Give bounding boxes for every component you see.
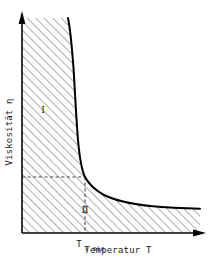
x-tick-label-tvmin-main: T	[76, 239, 82, 249]
hatched-area-under-curve	[22, 17, 201, 234]
viscosity-temperature-diagram: Viskosität η Temperatur T T v min I II	[0, 0, 212, 264]
region-label-one: I	[41, 105, 45, 115]
y-axis-label: Viskosität η	[4, 98, 14, 165]
x-tick-label-tvmin-subscript: v min	[85, 245, 105, 253]
viscosity-curve	[68, 18, 200, 209]
y-axis-arrow-icon	[19, 11, 26, 24]
region-label-two: II	[81, 205, 89, 215]
